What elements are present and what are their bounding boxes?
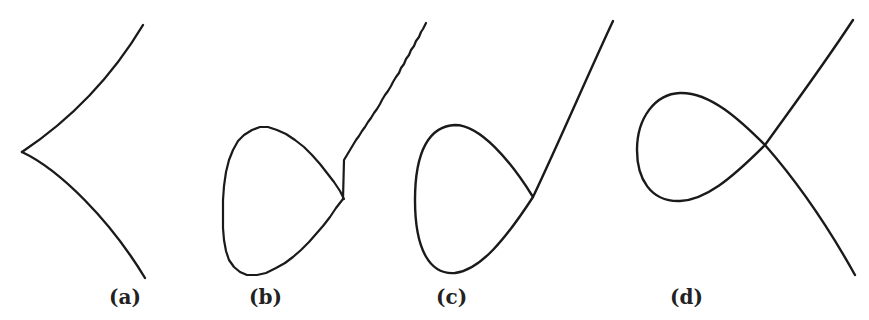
- panel-label-b: (b): [249, 287, 282, 307]
- curve-figure: (a) (b) (c) (d): [0, 0, 869, 320]
- panel-b-loop-curve: [223, 23, 426, 275]
- curves-canvas: [0, 0, 869, 320]
- panel-a-cusp-curve: [22, 25, 145, 278]
- panel-label-a: (a): [109, 287, 141, 307]
- panel-label-d: (d): [670, 287, 703, 307]
- panel-c-loop-curve: [415, 21, 613, 273]
- panel-d-node-curve: [637, 20, 855, 275]
- panel-label-c: (c): [436, 287, 467, 307]
